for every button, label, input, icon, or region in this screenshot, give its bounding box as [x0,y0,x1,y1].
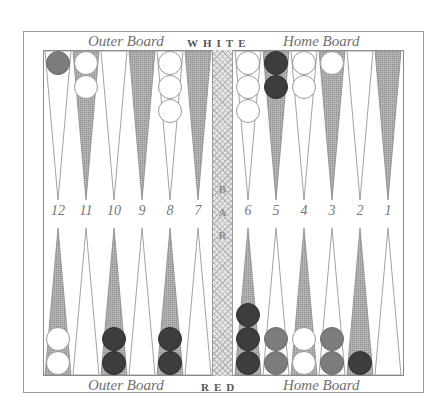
point-4-white-checker[interactable] [292,51,316,75]
bottom-col-5-medium-checker[interactable] [264,351,288,375]
point-9[interactable] [129,51,155,200]
point-bottom-col-1[interactable] [375,228,401,375]
bottom-col-10-dark-checker[interactable] [102,351,126,375]
bottom-col-3-medium-checker[interactable] [320,351,344,375]
point-number-9: 9 [132,203,152,219]
point-bottom-col-9[interactable] [129,228,155,375]
point-5-dark-checker[interactable] [264,75,288,99]
point-8-white-checker[interactable] [158,75,182,99]
point-number-2: 2 [350,203,370,219]
point-6-white-checker[interactable] [236,75,260,99]
point-number-12: 12 [48,203,68,219]
point-number-8: 8 [160,203,180,219]
bottom-col-3-medium-checker[interactable] [320,327,344,351]
point-number-6: 6 [238,203,258,219]
point-8-white-checker[interactable] [158,51,182,75]
bottom-col-2-dark-checker[interactable] [348,351,372,375]
point-8-white-checker[interactable] [158,99,182,123]
bar-letter-a: A [213,206,232,218]
point-number-1: 1 [378,203,398,219]
bar-letter-r: R [213,229,232,241]
point-11-white-checker[interactable] [74,51,98,75]
point-number-7: 7 [188,203,208,219]
bottom-col-6-dark-checker[interactable] [236,327,260,351]
point-3-white-checker[interactable] [320,51,344,75]
point-12-medium-checker[interactable] [46,51,70,75]
point-number-4: 4 [294,203,314,219]
point-number-5: 5 [266,203,286,219]
bottom-outer-board-label: Outer Board [88,377,164,394]
bar-letter-b: B [213,183,232,195]
point-6-white-checker[interactable] [236,51,260,75]
point-number-3: 3 [322,203,342,219]
point-bottom-col-7[interactable] [185,228,211,375]
point-6-white-checker[interactable] [236,99,260,123]
point-4-white-checker[interactable] [292,75,316,99]
bottom-col-4-white-checker[interactable] [292,327,316,351]
bottom-col-6-dark-checker[interactable] [236,303,260,327]
bottom-col-8-dark-checker[interactable] [158,327,182,351]
bottom-col-6-dark-checker[interactable] [236,351,260,375]
bottom-col-12-white-checker[interactable] [46,327,70,351]
point-7[interactable] [185,51,211,200]
bottom-player-label: RED [201,381,239,393]
bar[interactable]: B A R [212,50,233,376]
bottom-col-12-white-checker[interactable] [46,351,70,375]
point-10[interactable] [101,51,127,200]
bottom-col-8-dark-checker[interactable] [158,351,182,375]
point-1[interactable] [375,51,401,200]
point-2[interactable] [347,51,373,200]
bottom-col-10-dark-checker[interactable] [102,327,126,351]
point-number-11: 11 [76,203,96,219]
bottom-col-4-white-checker[interactable] [292,351,316,375]
point-5-dark-checker[interactable] [264,51,288,75]
bottom-col-5-medium-checker[interactable] [264,327,288,351]
point-11-white-checker[interactable] [74,75,98,99]
point-number-10: 10 [104,203,124,219]
bottom-home-board-label: Home Board [283,377,360,394]
point-bottom-col-11[interactable] [73,228,99,375]
